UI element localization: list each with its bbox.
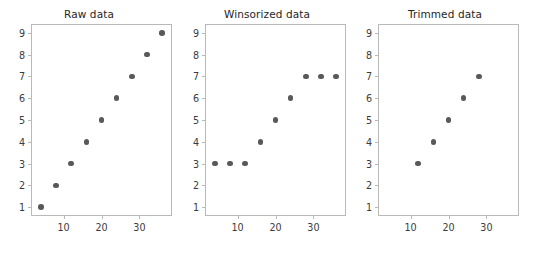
y-tick-mark xyxy=(202,164,205,165)
y-tick-label: 3 xyxy=(171,158,199,169)
y-tick-label: 6 xyxy=(171,93,199,104)
x-tick-label: 10 xyxy=(57,222,69,233)
y-tick-mark xyxy=(28,142,31,143)
data-point xyxy=(38,204,44,210)
x-tick-label: 10 xyxy=(231,222,243,233)
data-point xyxy=(303,74,309,80)
data-point xyxy=(333,74,339,80)
x-tick-mark xyxy=(449,216,450,219)
data-point xyxy=(431,139,437,145)
data-point xyxy=(144,52,150,58)
x-tick-mark xyxy=(139,216,140,219)
x-tick-mark xyxy=(411,216,412,219)
y-tick-label: 8 xyxy=(344,49,372,60)
data-point xyxy=(129,74,135,80)
y-tick-label: 1 xyxy=(171,202,199,213)
x-tick-mark xyxy=(486,216,487,219)
y-tick-mark xyxy=(202,185,205,186)
data-point xyxy=(318,74,324,80)
y-tick-mark xyxy=(28,33,31,34)
subplot-title: Winsorized data xyxy=(178,8,356,20)
y-tick-mark xyxy=(202,76,205,77)
matplotlib-figure: Raw data 123456789102030 Winsorized data… xyxy=(0,0,534,255)
subplot-title: Raw data xyxy=(0,8,178,20)
y-tick-label: 8 xyxy=(171,49,199,60)
y-tick-mark xyxy=(375,55,378,56)
y-tick-label: 7 xyxy=(171,71,199,82)
data-point xyxy=(446,117,452,123)
x-tick-label: 30 xyxy=(307,222,319,233)
y-tick-mark xyxy=(202,98,205,99)
data-point xyxy=(159,30,165,36)
y-tick-label: 9 xyxy=(0,27,25,38)
y-tick-label: 7 xyxy=(0,71,25,82)
y-tick-label: 5 xyxy=(0,115,25,126)
x-tick-mark xyxy=(238,216,239,219)
data-point xyxy=(212,161,218,167)
y-tick-label: 6 xyxy=(344,93,372,104)
y-tick-mark xyxy=(28,185,31,186)
y-tick-mark xyxy=(28,76,31,77)
y-tick-label: 3 xyxy=(0,158,25,169)
y-tick-label: 4 xyxy=(0,136,25,147)
y-tick-label: 9 xyxy=(171,27,199,38)
y-tick-mark xyxy=(28,120,31,121)
y-tick-mark xyxy=(202,207,205,208)
x-tick-label: 30 xyxy=(133,222,145,233)
y-tick-label: 1 xyxy=(0,202,25,213)
y-tick-label: 5 xyxy=(171,115,199,126)
x-tick-label: 30 xyxy=(480,222,492,233)
x-tick-label: 20 xyxy=(269,222,281,233)
subplot-raw-data: Raw data 123456789102030 xyxy=(0,0,178,255)
data-point xyxy=(53,183,59,189)
y-tick-mark xyxy=(375,164,378,165)
subplot-trimmed-data: Trimmed data 123456789102030 xyxy=(356,0,534,255)
y-tick-label: 2 xyxy=(171,180,199,191)
x-tick-mark xyxy=(313,216,314,219)
y-tick-mark xyxy=(375,33,378,34)
data-point xyxy=(99,117,105,123)
data-point xyxy=(258,139,264,145)
y-tick-mark xyxy=(375,76,378,77)
y-tick-mark xyxy=(375,120,378,121)
y-tick-mark xyxy=(28,164,31,165)
x-tick-mark xyxy=(276,216,277,219)
data-point xyxy=(84,139,90,145)
x-tick-label: 20 xyxy=(442,222,454,233)
y-tick-mark xyxy=(375,142,378,143)
y-tick-label: 4 xyxy=(171,136,199,147)
y-tick-mark xyxy=(375,207,378,208)
y-tick-mark xyxy=(375,185,378,186)
y-tick-label: 6 xyxy=(0,93,25,104)
x-tick-mark xyxy=(102,216,103,219)
y-tick-label: 2 xyxy=(344,180,372,191)
subplot-title: Trimmed data xyxy=(356,8,534,20)
y-tick-label: 9 xyxy=(344,27,372,38)
data-point xyxy=(476,74,482,80)
y-tick-label: 4 xyxy=(344,136,372,147)
y-tick-mark xyxy=(202,142,205,143)
y-tick-mark xyxy=(202,120,205,121)
y-tick-label: 5 xyxy=(344,115,372,126)
y-tick-mark xyxy=(28,55,31,56)
y-tick-label: 2 xyxy=(0,180,25,191)
y-tick-mark xyxy=(202,33,205,34)
y-tick-label: 1 xyxy=(344,202,372,213)
y-tick-label: 7 xyxy=(344,71,372,82)
y-tick-mark xyxy=(375,98,378,99)
y-tick-mark xyxy=(202,55,205,56)
x-tick-mark xyxy=(64,216,65,219)
y-tick-label: 3 xyxy=(344,158,372,169)
y-tick-mark xyxy=(28,207,31,208)
x-tick-label: 20 xyxy=(95,222,107,233)
y-tick-label: 8 xyxy=(0,49,25,60)
x-tick-label: 10 xyxy=(404,222,416,233)
y-tick-mark xyxy=(28,98,31,99)
subplot-winsorized-data: Winsorized data 123456789102030 xyxy=(178,0,356,255)
data-point xyxy=(273,117,279,123)
